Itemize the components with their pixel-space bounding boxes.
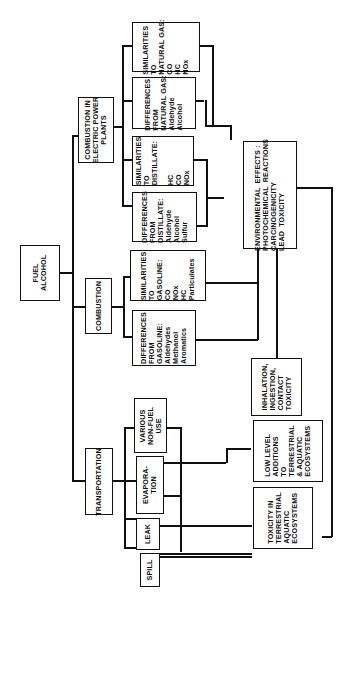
connector — [212, 45, 214, 125]
connector — [331, 187, 333, 537]
root-label: FUEL ALCOHOL — [32, 255, 48, 291]
combustion-label: COMBUSTION — [95, 281, 103, 331]
toxicity-terrestrial-label: TOXICITY IN TERRESTRIAL AQUATIC ECOSYSTE… — [267, 492, 299, 543]
spill-box: SPILL — [140, 553, 160, 587]
diff-distillate-label: DIFFERENCES FROM DISTILLATE: Aldehyde Al… — [141, 191, 189, 243]
connector — [164, 462, 226, 464]
connector — [226, 448, 228, 463]
connector — [196, 100, 204, 102]
similarities-natural-gas-box: SIMILARITIES TO NATURAL GAS: CO HC NOx — [132, 22, 200, 72]
connector — [122, 45, 124, 205]
sim-natural-gas-label: SIMILARITIES TO NATURAL GAS: CO HC NOx — [142, 19, 190, 74]
connector — [206, 282, 258, 284]
connector — [60, 272, 72, 274]
connector — [296, 187, 332, 189]
combustion-box: COMBUSTION — [85, 278, 112, 334]
connector — [122, 205, 132, 207]
similarities-distillate-box: SIMILARITIES TO DISTILLATE: HC CO NOx — [132, 136, 194, 186]
inhalation-ingestion-contact-box: INHALATION, INGESTION, CONTACT TOXICITY — [251, 358, 302, 416]
root-fuel-alcohol-box: FUEL ALCOHOL — [20, 245, 60, 301]
connector — [124, 518, 136, 520]
low-level-label: LOW LEVEL ADDITIONS TO TERRESTRIAL & AQU… — [264, 425, 312, 476]
connector — [72, 306, 86, 308]
diff-natural-gas-label: DIFFERENCES FROM NATURAL GAS: Aldehyde A… — [144, 75, 184, 130]
connector — [166, 427, 181, 429]
connector — [122, 100, 132, 102]
connector — [180, 427, 182, 552]
connector — [160, 525, 252, 527]
connector — [124, 547, 136, 549]
connector — [230, 125, 232, 140]
connector — [72, 480, 86, 482]
inhalation-label: INHALATION, INGESTION, CONTACT TOXICITY — [261, 364, 293, 411]
connector — [72, 135, 74, 480]
leak-label: LEAK — [144, 524, 152, 544]
connector — [205, 125, 230, 127]
connector — [322, 536, 332, 538]
similarities-gasoline-box: SIMILARITIES TO GASOLINE: CO NOx HC Part… — [130, 250, 206, 301]
connector — [123, 276, 125, 336]
connector — [206, 159, 208, 227]
environmental-effects-label: ENVIRONMENTAL EFFECTS : PHOTOCHEMICAL RE… — [254, 139, 286, 251]
differences-distillate-box: DIFFERENCES FROM DISTILLATE: Aldehyde Al… — [132, 192, 197, 242]
leak-box: LEAK — [136, 518, 160, 550]
connector — [158, 553, 252, 555]
spill-label: SPILL — [146, 560, 154, 581]
connector — [194, 159, 206, 161]
connector — [196, 339, 258, 341]
connector — [276, 248, 278, 358]
connector — [257, 248, 259, 340]
various-non-fuel-use-box: VARIOUS NON-FUEL USE — [134, 398, 167, 453]
connector — [122, 45, 132, 47]
connector — [124, 427, 126, 547]
evaporation-box: EVAPORA- TION — [136, 456, 164, 514]
differences-natural-gas-box: DIFFERENCES FROM NATURAL GAS: Aldehyde A… — [132, 77, 196, 129]
evaporation-label: EVAPORA- TION — [142, 466, 158, 504]
diff-gasoline-label: DIFFERENCES FROM GASOLINE: Aldehydes Met… — [140, 312, 188, 364]
connector — [122, 159, 132, 161]
low-level-additions-box: LOW LEVEL ADDITIONS TO TERRESTRIAL & AQU… — [253, 420, 323, 482]
toxicity-terrestrial-aquatic-box: TOXICITY IN TERRESTRIAL AQUATIC ECOSYSTE… — [253, 487, 313, 549]
power-plants-label: COMBUSTION IN ELECTRIC POWER PLANTS — [84, 97, 108, 164]
transportation-box: TRANSPORTATION — [85, 448, 113, 515]
sim-gasoline-label: SIMILARITIES TO GASOLINE: CO NOx HC Part… — [140, 251, 196, 300]
differences-gasoline-box: DIFFERENCES FROM GASOLINE: Aldehydes Met… — [132, 310, 196, 366]
transportation-label: TRANSPORTATION — [95, 448, 103, 515]
connector — [226, 448, 251, 450]
sim-distillate-label: SIMILARITIES TO DISTILLATE: HC CO NOx — [135, 137, 191, 186]
various-non-fuel-label: VARIOUS NON-FUEL USE — [139, 407, 163, 445]
fuel-alcohol-flow-diagram: FUEL ALCOHOL COMBUSTION IN ELECTRIC POWE… — [0, 0, 351, 681]
environmental-effects-box: ENVIRONMENTAL EFFECTS : PHOTOCHEMICAL RE… — [243, 141, 297, 249]
connector — [205, 100, 207, 125]
combustion-power-plants-box: COMBUSTION IN ELECTRIC POWER PLANTS — [78, 97, 114, 163]
connector — [124, 480, 136, 482]
connector — [200, 45, 212, 47]
connector — [164, 495, 181, 497]
connector — [206, 197, 224, 199]
